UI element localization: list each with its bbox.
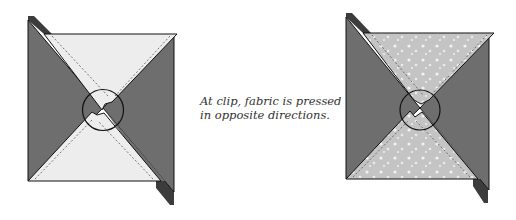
- left-pinwheel-block: [28, 16, 177, 205]
- caption-line-1: At clip, fabric is pressed: [200, 94, 328, 108]
- caption: At clip, fabric is pressed in opposite d…: [200, 94, 328, 122]
- caption-line-2: in opposite directions.: [200, 108, 328, 122]
- right-pinwheel-block: [346, 13, 494, 203]
